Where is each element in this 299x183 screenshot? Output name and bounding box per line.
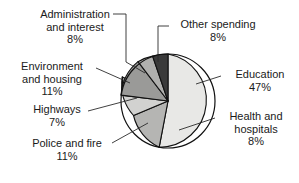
label-police-and-fire: Police and fire 11% <box>18 137 116 162</box>
label-health-line2: hospitals <box>234 123 277 135</box>
label-environment-percent: 11% <box>10 85 94 98</box>
label-education-percent: 47% <box>224 81 296 94</box>
label-education: Education 47% <box>224 68 296 93</box>
label-administration-line2: and interest <box>46 21 103 33</box>
label-police-percent: 11% <box>18 150 116 163</box>
label-other-line1: Other spending <box>180 18 255 30</box>
label-environment-line1: Environment <box>21 60 83 72</box>
label-other-spending: Other spending 8% <box>172 18 264 43</box>
pie-chart-figure: Administration and interest 8% Environme… <box>0 0 299 183</box>
leader-line-environment <box>96 68 130 83</box>
label-health-and-hospitals: Health and hospitals 8% <box>218 110 294 148</box>
label-highways-line1: Highways <box>33 103 81 115</box>
label-police-line1: Police and fire <box>32 137 102 149</box>
label-highways: Highways 7% <box>20 103 94 128</box>
label-environment-line2: and housing <box>22 73 82 85</box>
label-environment-and-housing: Environment and housing 11% <box>10 60 94 98</box>
label-administration-and-interest: Administration and interest 8% <box>26 8 124 46</box>
label-other-percent: 8% <box>172 31 264 44</box>
label-education-line1: Education <box>236 68 285 80</box>
label-health-percent: 8% <box>218 135 294 148</box>
label-administration-line1: Administration <box>40 8 110 20</box>
label-administration-percent: 8% <box>26 33 124 46</box>
label-health-line1: Health and <box>229 110 282 122</box>
label-highways-percent: 7% <box>20 116 94 129</box>
